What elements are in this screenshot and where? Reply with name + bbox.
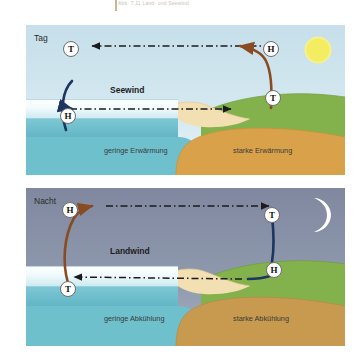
marker-night-sea-upper[interactable]: H <box>62 202 78 218</box>
label-starke-erwaermung: starke Erwärmung <box>233 146 292 155</box>
marker-night-sea-lower[interactable]: T <box>60 281 76 297</box>
marker-day-land-lower[interactable]: T <box>265 90 281 106</box>
ground-brown-day <box>201 137 345 175</box>
label-geringe-erwaermung: geringe Erwärmung <box>104 146 168 155</box>
panel-day-wind-label: Seewind <box>110 85 144 95</box>
sea-upper-deep-night <box>26 286 178 306</box>
marker-night-land-upper[interactable]: T <box>264 207 280 223</box>
marker-day-land-upper[interactable]: H <box>263 41 279 57</box>
marker-day-sea-lower[interactable]: H <box>60 108 76 124</box>
label-geringe-abkuehlung: geringe Abkühlung <box>104 314 164 323</box>
sun-icon <box>307 39 330 62</box>
sea-basin-day <box>26 137 202 175</box>
sea-surface-layer-night <box>26 266 178 286</box>
caption-rule <box>115 0 117 11</box>
figure-caption: Abb. 7.11 Land- und Seewind <box>118 0 189 6</box>
figure-caption-strip: Abb. 7.11 Land- und Seewind <box>0 0 359 14</box>
panel-night-time-label: Nacht <box>34 196 56 206</box>
label-starke-abkuehlung: starke Abkühlung <box>233 314 289 323</box>
panel-night-wind-label: Landwind <box>110 246 150 256</box>
sea-basin-night <box>26 306 202 346</box>
marker-night-land-lower[interactable]: H <box>266 262 282 278</box>
panel-day-time-label: Tag <box>34 33 48 43</box>
sea-upper-deep-day <box>26 118 178 137</box>
marker-day-sea-upper[interactable]: T <box>63 41 79 57</box>
figure-root: Abb. 7.11 Land- und Seewind <box>0 0 359 359</box>
ground-brown-night <box>201 306 345 346</box>
